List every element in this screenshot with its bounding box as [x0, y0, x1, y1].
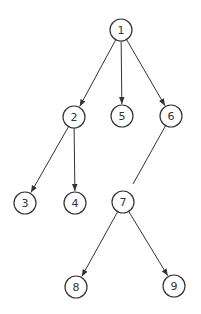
node-label: 3 — [22, 197, 29, 210]
node-8: 8 — [65, 276, 87, 298]
tree-diagram: 125634789 — [0, 0, 201, 314]
edge-2-4 — [74, 128, 75, 191]
node-2: 2 — [63, 106, 85, 128]
edge-6-7 — [133, 126, 166, 184]
node-3: 3 — [14, 192, 36, 214]
node-label: 8 — [73, 281, 80, 294]
nodes: 125634789 — [14, 19, 185, 298]
edge-2-3 — [31, 127, 69, 193]
node-4: 4 — [64, 192, 86, 214]
node-label: 9 — [171, 280, 178, 293]
node-label: 6 — [168, 110, 175, 123]
edge-1-5 — [121, 41, 122, 104]
edges — [31, 40, 168, 277]
edge-1-2 — [80, 40, 116, 107]
node-label: 4 — [72, 197, 79, 210]
node-label: 7 — [120, 196, 127, 209]
edge-7-8 — [82, 212, 118, 277]
node-label: 2 — [71, 111, 78, 124]
node-5: 5 — [111, 105, 133, 127]
node-label: 1 — [118, 24, 125, 37]
node-7: 7 — [112, 191, 134, 213]
node-6: 6 — [160, 105, 182, 127]
node-1: 1 — [110, 19, 132, 41]
edge-1-6 — [127, 40, 165, 106]
node-label: 5 — [119, 110, 126, 123]
node-9: 9 — [163, 275, 185, 297]
edge-7-9 — [129, 211, 168, 275]
